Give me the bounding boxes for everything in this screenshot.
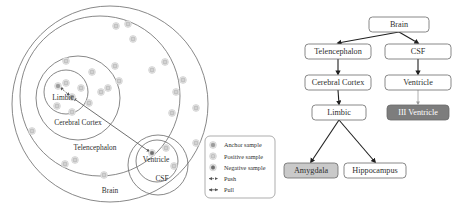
legend-label-anchor-sample: Anchor sample — [224, 141, 262, 148]
sample-positive — [171, 163, 178, 170]
node-label-telencephalon: Telencephalon — [314, 47, 362, 56]
label-cerebral-cortex: Cerebral Cortex — [54, 118, 102, 127]
csf-circle — [128, 135, 188, 195]
edge-limbic-to-amygdala — [311, 120, 339, 162]
node-iii-ventricle[interactable]: III Ventricle — [387, 105, 449, 120]
node-brain[interactable]: Brain — [369, 17, 429, 32]
region-circles — [12, 6, 208, 202]
sample-positive — [169, 110, 176, 117]
label-ventricle: Ventricle — [143, 155, 170, 164]
node-cerebral-cortex[interactable]: Cerebral Cortex — [305, 75, 371, 90]
sample-positive — [69, 109, 76, 116]
sample-positive — [63, 58, 70, 65]
hierarchy-panel: BrainTelencephalonCSFCerebral CortexVent… — [280, 0, 470, 207]
label-limbic: Limbic — [52, 93, 74, 102]
node-label-csf: CSF — [411, 47, 426, 56]
sample-positive — [193, 105, 200, 112]
label-csf: CSF — [155, 174, 168, 183]
figure-root: LimbicCerebral CortexTelencephalonVentri… — [0, 0, 470, 207]
embedding-space-panel: LimbicCerebral CortexTelencephalonVentri… — [0, 0, 280, 207]
sample-positive — [29, 128, 36, 135]
sample-positive — [98, 89, 105, 96]
brain-circle — [12, 6, 208, 202]
legend-label-push: Push — [224, 175, 237, 182]
label-telencephalon: Telencephalon — [74, 143, 117, 152]
sample-positive — [116, 78, 123, 85]
legend-label-negative-sample: Negative sample — [224, 164, 266, 171]
node-label-iii-ventricle: III Ventricle — [398, 108, 438, 117]
node-limbic[interactable]: Limbic — [312, 105, 366, 120]
node-label-amygdala: Amygdala — [294, 166, 328, 175]
sample-positive — [105, 85, 112, 92]
sample-positive — [72, 157, 79, 164]
sample-positive — [62, 161, 69, 168]
legend-label-pull: Pull — [224, 186, 234, 193]
node-label-limbic: Limbic — [327, 108, 351, 117]
legend-box: Anchor samplePositive sampleNegative sam… — [205, 136, 275, 198]
sample-positive — [163, 145, 170, 152]
sample-positive — [130, 36, 137, 43]
sample-positive — [78, 85, 85, 92]
sample-positive — [113, 23, 120, 30]
sample-positive — [162, 59, 169, 66]
node-amygdala[interactable]: Amygdala — [284, 163, 338, 178]
hierarchy-svg: BrainTelencephalonCSFCerebral CortexVent… — [280, 0, 470, 207]
sample-positive — [89, 69, 96, 76]
sample-positive — [193, 140, 200, 147]
edge-limbic-to-hippocampus — [339, 120, 375, 162]
sample-anchor — [55, 83, 62, 90]
edge-brain-to-telencephalon — [338, 32, 399, 43]
node-label-brain: Brain — [390, 20, 408, 29]
sample-positive — [112, 63, 119, 70]
node-ventricle[interactable]: Ventricle — [385, 75, 451, 90]
node-label-cerebral-cortex: Cerebral Cortex — [312, 78, 365, 87]
region-labels: LimbicCerebral CortexTelencephalonVentri… — [52, 93, 170, 195]
edge-brain-to-csf — [399, 32, 418, 43]
label-brain: Brain — [102, 186, 119, 195]
legend-label-positive-sample: Positive sample — [224, 153, 263, 160]
sample-positive — [101, 172, 108, 179]
sample-positive — [54, 103, 61, 110]
edge-cerebral-cortex-to-limbic — [338, 90, 339, 104]
sample-positive — [63, 80, 70, 87]
sample-positive — [125, 21, 132, 28]
sample-positive — [180, 77, 187, 84]
sample-positive — [149, 67, 156, 74]
node-label-ventricle: Ventricle — [403, 78, 433, 87]
embedding-space-svg: LimbicCerebral CortexTelencephalonVentri… — [0, 0, 280, 207]
sample-positive — [173, 89, 180, 96]
node-csf[interactable]: CSF — [385, 44, 451, 59]
cerebral-cortex-circle — [36, 56, 120, 140]
node-hippocampus[interactable]: Hippocampus — [344, 163, 406, 178]
sample-positive — [86, 100, 93, 107]
node-label-hippocampus: Hippocampus — [352, 166, 397, 175]
node-telencephalon[interactable]: Telencephalon — [305, 44, 371, 59]
